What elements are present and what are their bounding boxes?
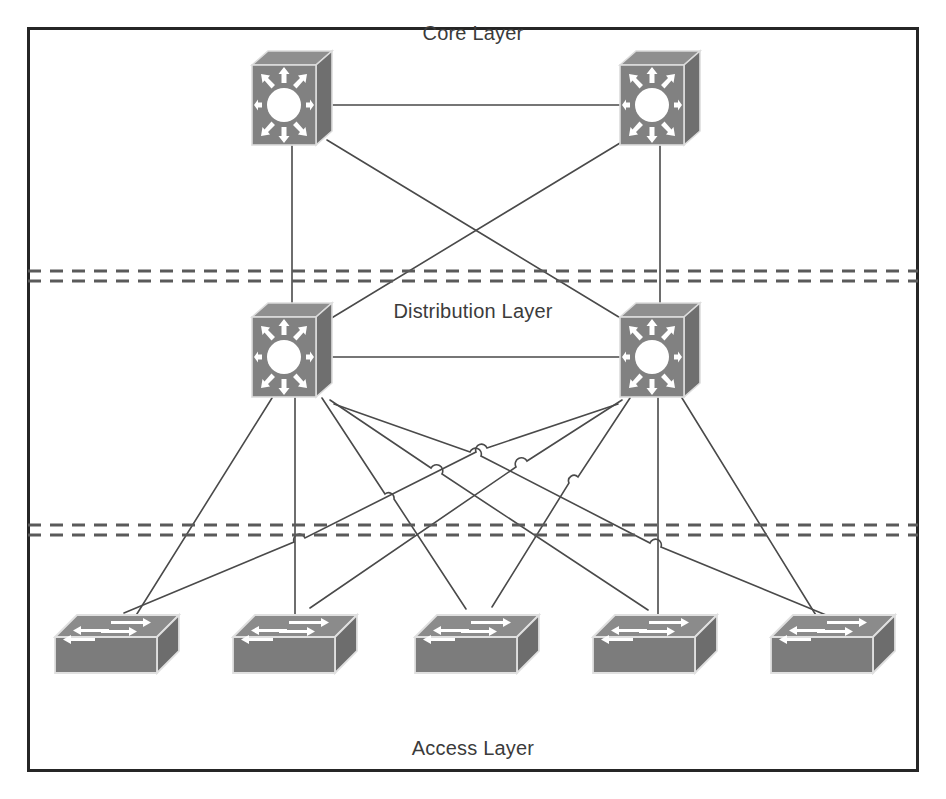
topology-canvas: Core Layer Distribution Layer Access Lay… — [0, 0, 946, 799]
core-layer-group — [252, 51, 700, 145]
link-core1-dist2 — [327, 140, 627, 322]
link-layer — [124, 105, 826, 625]
link-dist2-acc5 — [682, 398, 822, 625]
link-core2-dist1 — [325, 140, 625, 322]
core-layer-label: Core Layer — [423, 22, 524, 44]
access-switch-4[interactable] — [593, 615, 717, 673]
distribution-switch-1[interactable] — [252, 303, 332, 397]
access-switch-5[interactable] — [771, 615, 895, 673]
core-switch-2[interactable] — [620, 51, 700, 145]
link-dist1-acc4 — [330, 400, 648, 610]
access-layer-label: Access Layer — [412, 737, 535, 759]
access-layer-group — [55, 615, 895, 673]
link-dist1-acc1 — [130, 398, 272, 625]
network-topology-diagram: Core Layer Distribution Layer Access Lay… — [0, 0, 946, 799]
access-switch-3[interactable] — [415, 615, 539, 673]
distribution-layer-label: Distribution Layer — [393, 300, 552, 322]
link-dist1-acc5 — [334, 404, 826, 615]
distribution-switch-2[interactable] — [620, 303, 700, 397]
access-switch-2[interactable] — [233, 615, 357, 673]
link-dist2-acc1 — [124, 404, 618, 613]
link-dist1-acc3 — [322, 398, 466, 609]
access-switch-1[interactable] — [55, 615, 179, 673]
core-switch-1[interactable] — [252, 51, 332, 145]
link-dist2-acc3 — [492, 398, 630, 607]
